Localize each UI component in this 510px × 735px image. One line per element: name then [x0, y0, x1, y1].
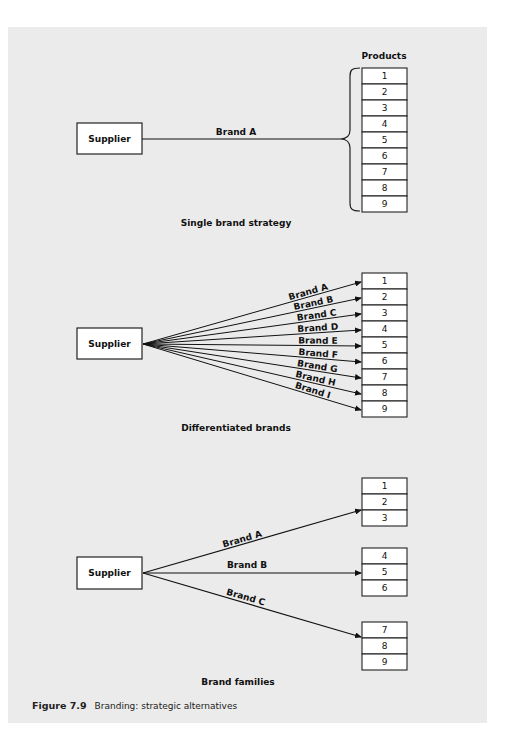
product-number: 4 — [382, 324, 388, 334]
product-number: 8 — [382, 641, 388, 651]
product-number: 1 — [382, 276, 388, 286]
product-number: 1 — [382, 71, 388, 81]
panel-title: Brand families — [201, 677, 274, 687]
product-number: 3 — [382, 513, 388, 523]
product-number: 2 — [382, 497, 388, 507]
panel-title: Single brand strategy — [181, 218, 292, 228]
supplier-label: Supplier — [88, 339, 131, 349]
product-number: 4 — [382, 119, 388, 129]
product-number: 2 — [382, 87, 388, 97]
supplier-label: Supplier — [88, 568, 131, 578]
product-number: 7 — [382, 372, 388, 382]
panel-title: Differentiated brands — [181, 423, 291, 433]
product-number: 8 — [382, 388, 388, 398]
product-number: 3 — [382, 308, 388, 318]
product-number: 5 — [382, 567, 388, 577]
product-number: 2 — [382, 292, 388, 302]
product-number: 9 — [382, 657, 388, 667]
families-diagram: Supplier Brand A Brand B Brand C 1234567… — [77, 478, 407, 687]
brand-label-b: Brand B — [227, 560, 267, 570]
product-number: 7 — [382, 625, 388, 635]
differentiated-diagram: Supplier Brand ABrand BBrand CBrand DBra… — [77, 273, 407, 433]
product-number: 6 — [382, 151, 388, 161]
supplier-label: Supplier — [88, 134, 131, 144]
figure-caption-text: Branding: strategic alternatives — [95, 701, 238, 711]
product-number: 4 — [382, 551, 388, 561]
product-number: 9 — [382, 199, 388, 209]
product-number: 5 — [382, 340, 388, 350]
single-brand-diagram: Products Supplier Brand A 123456789 Sing… — [77, 51, 407, 228]
product-number: 8 — [382, 183, 388, 193]
brace-icon — [340, 68, 360, 211]
product-number: 1 — [382, 481, 388, 491]
figure-caption: Figure 7.9 Branding: strategic alternati… — [32, 695, 237, 712]
brand-label-c: Brand C — [225, 587, 267, 608]
product-stack: 123456789 — [362, 273, 407, 417]
branding-diagram: Products Supplier Brand A 123456789 Sing… — [0, 0, 510, 735]
product-number: 5 — [382, 135, 388, 145]
brand-arrow-c — [143, 573, 361, 637]
product-number: 3 — [382, 103, 388, 113]
product-number: 7 — [382, 167, 388, 177]
brand-label: Brand E — [298, 335, 338, 345]
brand-arrows: Brand ABrand BBrand CBrand DBrand EBrand… — [143, 282, 361, 410]
products-header: Products — [361, 51, 406, 61]
product-number: 9 — [382, 404, 388, 414]
brand-label: Brand A — [216, 127, 256, 137]
brand-label-a: Brand A — [221, 529, 263, 550]
product-groups: 123456789 — [362, 478, 407, 670]
product-number: 6 — [382, 583, 388, 593]
product-stack: 123456789 — [362, 68, 407, 212]
product-number: 6 — [382, 356, 388, 366]
figure-number: Figure 7.9 — [32, 700, 87, 711]
